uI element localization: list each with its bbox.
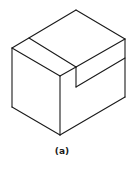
edge-step-short [60,67,76,76]
figure-caption: (a) [0,146,124,156]
edge-bottom-right [60,97,125,135]
edge-top-right-back [76,10,125,39]
edge-top-left-back [12,10,76,48]
edge-bottom-left [12,107,60,135]
